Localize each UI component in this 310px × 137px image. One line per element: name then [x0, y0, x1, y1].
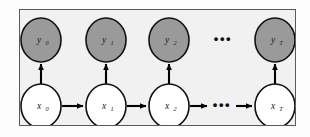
observed-row-ellipsis: ••• — [214, 31, 232, 46]
node-x1: x 1 — [86, 84, 126, 126]
node-x2: x 2 — [149, 84, 189, 126]
graphical-model-canvas: y 0 y 1 y 2 y T ••• — [20, 10, 296, 126]
observed-nodes-group: y 0 y 1 y 2 y T ••• — [21, 18, 295, 62]
model-plate-frame: y 0 y 1 y 2 y T ••• — [19, 9, 296, 126]
node-xT-label: x — [270, 101, 276, 111]
node-y1-subscript: 1 — [110, 39, 113, 46]
node-y2: y 2 — [149, 18, 189, 62]
emission-arrows-group — [41, 64, 275, 84]
node-xT-subscript: T — [279, 105, 283, 112]
node-y2-label: y — [164, 35, 170, 45]
node-y0: y 0 — [21, 18, 61, 62]
node-x0: x 0 — [21, 84, 61, 126]
node-x0-label: x — [36, 101, 42, 111]
node-y1-label: y — [101, 35, 107, 45]
node-xT: x T — [255, 84, 295, 126]
node-x1-label: x — [101, 101, 107, 111]
node-y1: y 1 — [86, 18, 126, 62]
node-y0-label: y — [36, 35, 42, 45]
node-x2-label: x — [164, 101, 170, 111]
node-yT-subscript: T — [279, 39, 283, 46]
node-x1-subscript: 1 — [110, 105, 113, 112]
figure-screenshot: y 0 y 1 y 2 y T ••• — [0, 0, 310, 137]
node-yT-label: y — [270, 35, 276, 45]
latent-row-ellipsis: ••• — [213, 97, 231, 112]
node-yT: y T — [255, 18, 295, 62]
